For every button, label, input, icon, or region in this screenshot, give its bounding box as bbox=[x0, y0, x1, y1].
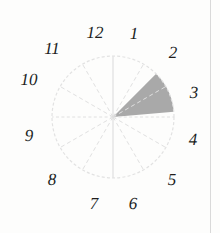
clock-spoke-7 bbox=[83, 117, 114, 170]
clock-numeral-10: 10 bbox=[21, 71, 38, 88]
figure-canvas: 123456789101112 bbox=[0, 0, 220, 233]
clock-spoke-8 bbox=[60, 117, 113, 148]
clock-numeral-4: 4 bbox=[189, 131, 198, 148]
clock-numeral-8: 8 bbox=[48, 171, 57, 188]
clock-spoke-11 bbox=[83, 64, 114, 117]
clock-numeral-9: 9 bbox=[25, 127, 34, 144]
clock-spoke-5 bbox=[113, 117, 144, 170]
clock-face-graphic bbox=[0, 0, 220, 233]
clock-numeral-12: 12 bbox=[87, 24, 104, 41]
clock-numeral-3: 3 bbox=[190, 84, 199, 101]
clock-numeral-5: 5 bbox=[168, 171, 177, 188]
clock-numeral-6: 6 bbox=[129, 195, 138, 212]
clock-numeral-11: 11 bbox=[44, 40, 60, 57]
clock-numeral-2: 2 bbox=[169, 44, 178, 61]
clock-spoke-4 bbox=[113, 117, 166, 148]
clock-numeral-1: 1 bbox=[130, 25, 139, 42]
clock-spokes bbox=[52, 56, 174, 178]
clock-numeral-7: 7 bbox=[90, 195, 99, 212]
clock-spoke-10 bbox=[60, 87, 113, 118]
shaded-sector bbox=[113, 74, 174, 117]
